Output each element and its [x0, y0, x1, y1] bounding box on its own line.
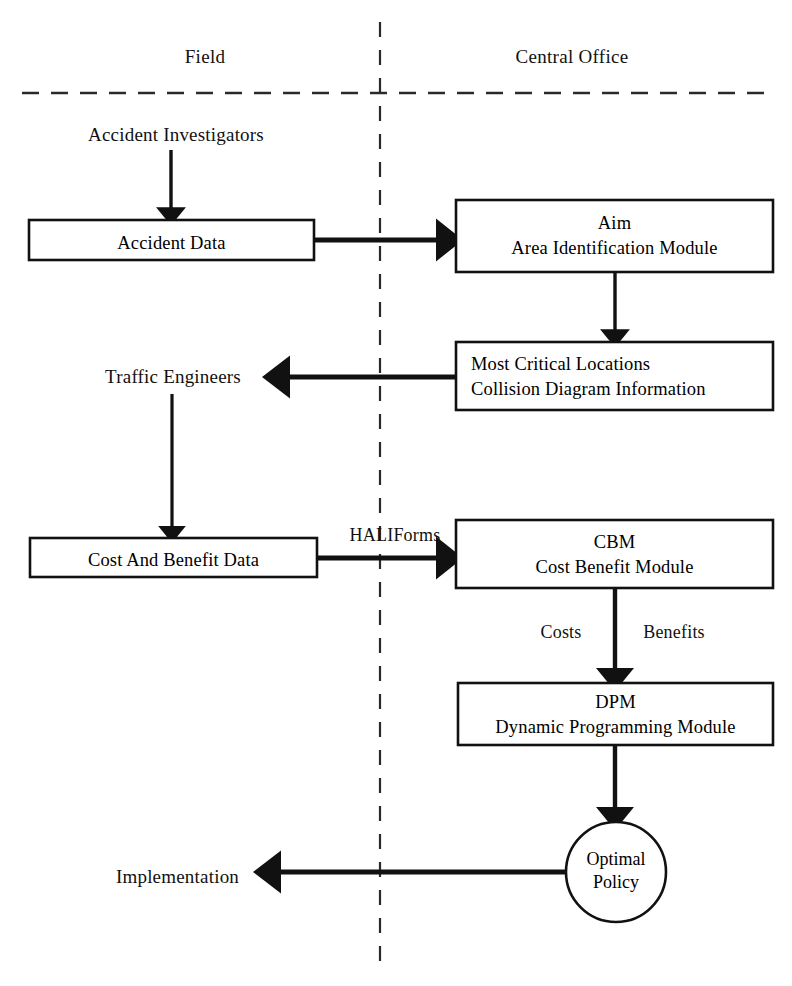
box-dpm-line-2: Dynamic Programming Module: [458, 715, 773, 740]
terminal-label-optimal-policy: Optimal Policy: [566, 848, 666, 895]
box-dpm-line-1: DPM: [458, 690, 773, 715]
box-label-most-critical-locations: Most Critical Locations Collision Diagra…: [471, 352, 771, 402]
actor-accident-investigators: Accident Investigators: [45, 124, 307, 146]
box-label-cost-and-benefit-data: Cost And Benefit Data: [30, 548, 317, 573]
box-label-dpm: DPM Dynamic Programming Module: [458, 690, 773, 740]
box-label-accident-data: Accident Data: [29, 231, 314, 256]
actor-traffic-engineers: Traffic Engineers: [58, 366, 288, 388]
edge-label-hali-forms: HALIForms: [325, 525, 465, 546]
box-cbm-line-1: CBM: [456, 530, 773, 555]
box-label-cbm: CBM Cost Benefit Module: [456, 530, 773, 580]
terminal-optimal-policy-line-2: Policy: [566, 871, 666, 894]
zone-title-central-office: Central Office: [492, 46, 652, 68]
terminal-optimal-policy-line-1: Optimal: [566, 848, 666, 871]
actor-implementation: Implementation: [90, 866, 265, 888]
box-accident-data-line-1: Accident Data: [29, 231, 314, 256]
flow-diagram-canvas: Field Central Office Accident Investigat…: [0, 0, 792, 986]
zone-title-field: Field: [145, 46, 265, 68]
box-most-critical-locations-line-2: Collision Diagram Information: [471, 377, 771, 402]
box-most-critical-locations-line-1: Most Critical Locations: [471, 352, 771, 377]
diagram-lines-layer: [0, 0, 792, 986]
edge-label-benefits: Benefits: [629, 622, 719, 643]
box-label-aim: Aim Area Identification Module: [456, 211, 773, 261]
edge-label-costs: Costs: [520, 622, 602, 643]
box-cbm-line-2: Cost Benefit Module: [456, 555, 773, 580]
box-aim-line-1: Aim: [456, 211, 773, 236]
box-aim-line-2: Area Identification Module: [456, 236, 773, 261]
box-cost-and-benefit-data-line-1: Cost And Benefit Data: [30, 548, 317, 573]
